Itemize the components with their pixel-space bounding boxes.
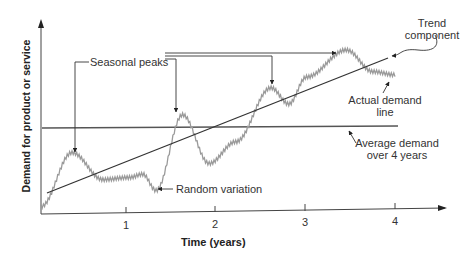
x-tick-2: 2 [212, 218, 218, 230]
x-tick-4: 4 [392, 215, 398, 227]
average-demand-line [42, 126, 398, 128]
seasonal-peaks-label: Seasonal peaks [90, 56, 168, 68]
random-variation-label: Random variation [176, 183, 262, 195]
y-axis [38, 19, 44, 214]
actual-demand-arrow [383, 82, 389, 93]
y-axis-label: Demand for product or service [20, 40, 32, 193]
x-axis-label: Time (years) [181, 236, 246, 248]
x-axis [41, 203, 447, 214]
trend-component-label: Trend component [392, 17, 468, 41]
x-tick-1: 1 [123, 219, 129, 231]
average-demand-label: Average demand over 4 years [352, 137, 442, 161]
trend-line [47, 58, 388, 193]
actual-demand-label: Actual demand line [345, 94, 425, 118]
x-tick-3: 3 [302, 216, 308, 228]
